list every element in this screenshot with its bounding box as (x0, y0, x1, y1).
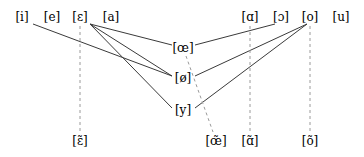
node-u: [u] (332, 11, 349, 23)
node-o: [o] (302, 11, 319, 23)
edge-dashed-oe-oenas (186, 56, 213, 132)
edge-solid-i-oslash (33, 24, 172, 76)
node-scripta: [ɑ] (241, 11, 258, 23)
node-openo: [ɔ] (273, 11, 289, 23)
node-onas: [õ] (302, 135, 319, 147)
node-i: [i] (15, 11, 28, 23)
edge-solid-eps-oe (90, 24, 172, 45)
node-y: [y] (175, 104, 191, 116)
edge-solid-openo-oe (195, 24, 275, 45)
edge-solid-eps-y (90, 24, 172, 108)
node-eps: [ɛ] (72, 11, 88, 23)
node-e: [e] (44, 11, 60, 23)
node-a: [a] (103, 11, 120, 23)
node-oslash: [ø] (175, 72, 192, 84)
node-epsnas: [ɛ̃] (72, 135, 88, 147)
edge-solid-eps-oslash (90, 24, 172, 76)
node-anas: [ɑ̃] (241, 135, 258, 147)
vowel-system-diagram: [i][e][ɛ][a][ɑ][ɔ][o][u][œ][ø][y][ɛ̃][œ̃… (0, 0, 364, 157)
edge-solid-o-oslash (195, 24, 307, 76)
edge-solid-o-y (195, 24, 307, 108)
node-oenas: [œ̃] (205, 135, 226, 147)
node-oe: [œ] (172, 42, 193, 54)
